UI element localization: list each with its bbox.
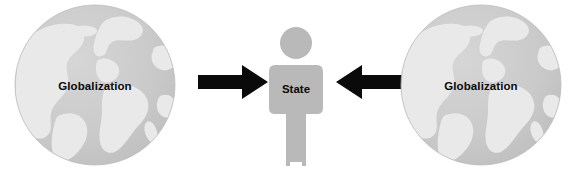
globe-left: Globalization [14,4,176,166]
arrow-right-icon [198,63,270,101]
arrow-left-icon [334,63,406,101]
globe-right: Globalization [400,4,562,166]
globe-right-label: Globalization [400,79,562,93]
globe-left-label: Globalization [14,79,176,93]
state-label: State [265,82,327,96]
state-person-icon [265,26,327,171]
diagram-canvas: Globalization State [0,0,577,182]
